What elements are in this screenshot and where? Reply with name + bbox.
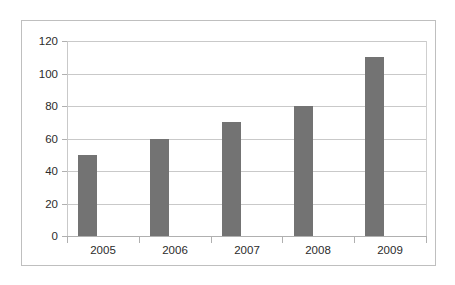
y-axis-tick-label: 100 [39,68,58,80]
x-axis-tick-label: 2009 [354,244,426,256]
x-axis-tick-label: 2006 [139,244,211,256]
x-axis-tick-label: 2007 [211,244,283,256]
bar-2008 [294,106,313,236]
bar-2009 [365,57,384,236]
y-axis-tick-label: 60 [45,133,58,145]
y-axis-tick-label: 20 [45,198,58,210]
x-axis-tick [426,237,427,243]
bar-2005 [78,155,97,236]
x-axis-tick [139,237,140,243]
x-axis-tick [354,237,355,243]
y-axis-tick-label: 120 [39,35,58,47]
x-axis-tick [211,237,212,243]
bar-chart: 020406080100120 20052006200720082009 [0,0,455,285]
x-axis-tick [282,237,283,243]
bar-2007 [222,122,241,236]
y-axis-tick-label: 0 [52,230,58,242]
x-axis-tick-label: 2005 [67,244,139,256]
y-axis-tick-label: 40 [45,165,58,177]
x-axis-tick-label: 2008 [282,244,354,256]
y-axis-tick-label: 80 [45,100,58,112]
x-axis-tick [67,237,68,243]
plot-right-border [426,41,427,237]
plot-area [67,41,426,236]
bar-2006 [150,139,169,237]
x-axis-line [67,236,427,237]
